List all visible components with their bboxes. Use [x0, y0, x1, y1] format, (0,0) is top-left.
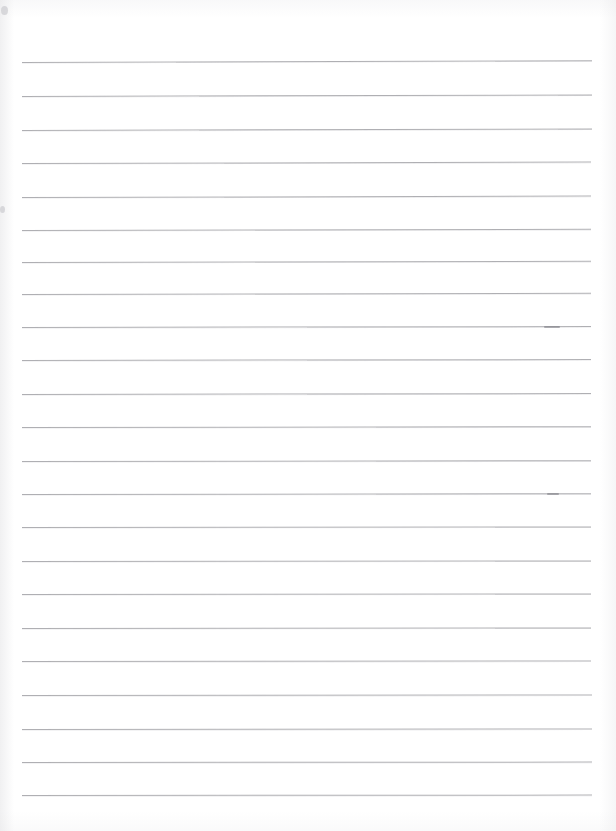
fleck-mid-left: [0, 206, 5, 213]
lined-paper-page: [0, 0, 616, 831]
writing-area[interactable]: [22, 40, 592, 810]
fleck-top-left: [1, 6, 8, 15]
